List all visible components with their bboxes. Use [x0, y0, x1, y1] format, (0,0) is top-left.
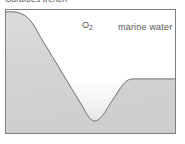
oxygen-label: O2 [82, 20, 93, 33]
oxygen-label-text: O [82, 20, 89, 30]
trench-cross-section-figure: Caraïbes trench [0, 0, 185, 144]
figure-caption: Caraïbes trench [5, 0, 165, 5]
diagram-panel: O2 marine water [5, 9, 176, 134]
marine-water-label: marine water [118, 22, 172, 33]
oxygen-label-subscript: 2 [89, 24, 93, 31]
